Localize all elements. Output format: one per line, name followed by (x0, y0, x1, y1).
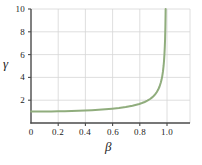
x-tick-label-0-4: 0.4 (72, 127, 98, 137)
x-tick-label-0-8: 0.8 (127, 127, 153, 137)
x-tick-label-0-2: 0.2 (45, 127, 71, 137)
y-tick-label-2: 2 (4, 95, 25, 105)
x-tick-label-1-0: 1.0 (154, 127, 180, 137)
x-tick-label-0: 0 (21, 127, 41, 137)
y-tick-label-8: 8 (4, 27, 25, 37)
x-tick-label-0-6: 0.6 (100, 127, 126, 137)
x-axis-title: β (105, 139, 111, 155)
chart-canvas (0, 0, 202, 165)
y-axis-title: γ (3, 56, 8, 72)
y-tick-label-4: 4 (4, 72, 25, 82)
y-tick-label-10: 10 (4, 4, 25, 14)
chart-figure: 10 8 6 4 2 0 0.2 0.4 0.6 0.8 1.0 γ β (0, 0, 202, 165)
